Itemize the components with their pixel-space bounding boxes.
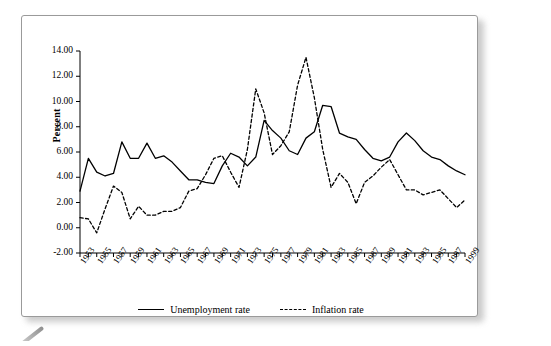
page-background: Percent -2.000.002.004.006.008.0010.0012… — [0, 0, 551, 346]
legend-entry: Inflation rate — [280, 304, 364, 315]
y-tick-label: 12.00 — [28, 70, 73, 80]
chart-axes — [76, 51, 465, 257]
page-curl-line — [20, 326, 44, 341]
chart-area: Percent -2.000.002.004.006.008.0010.0012… — [22, 16, 479, 318]
figure-card: Percent -2.000.002.004.006.008.0010.0012… — [21, 15, 478, 317]
y-tick-label: 4.00 — [28, 171, 73, 181]
line-chart-svg — [22, 16, 479, 318]
y-tick-label: 6.00 — [28, 146, 73, 156]
y-tick-label: 14.00 — [28, 45, 73, 55]
legend-label: Inflation rate — [312, 304, 364, 315]
y-tick-label: 2.00 — [28, 197, 73, 207]
legend-entry: Unemployment rate — [138, 304, 250, 315]
y-tick-label: 10.00 — [28, 96, 73, 106]
legend-label: Unemployment rate — [170, 304, 250, 315]
series-line-unemployment-rate — [80, 105, 465, 191]
legend-swatch-solid — [138, 309, 164, 310]
y-tick-label: -2.00 — [28, 247, 73, 257]
page-curl-decoration — [20, 325, 46, 341]
y-tick-label: 8.00 — [28, 121, 73, 131]
series-line-inflation-rate — [80, 57, 465, 232]
y-tick-label: 0.00 — [28, 222, 73, 232]
chart-legend: Unemployment rateInflation rate — [66, 299, 436, 319]
legend-swatch-dashed — [280, 309, 306, 310]
chart-series — [80, 57, 465, 232]
